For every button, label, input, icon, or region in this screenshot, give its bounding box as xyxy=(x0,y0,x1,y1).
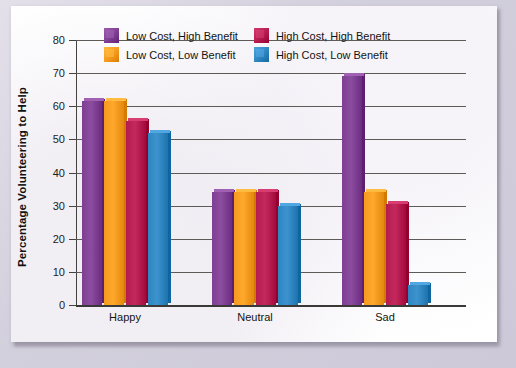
bar-top-highlight xyxy=(84,98,104,101)
y-tick-30 xyxy=(69,206,76,207)
bar-body xyxy=(278,206,298,305)
y-tick-60 xyxy=(69,106,76,107)
legend-label: Low Cost, Low Benefit xyxy=(126,49,235,61)
bar[interactable] xyxy=(234,192,254,305)
bar-body xyxy=(148,133,168,305)
bar-top-highlight xyxy=(388,201,408,204)
bar-top-highlight xyxy=(258,189,278,192)
bar-body xyxy=(256,192,276,305)
legend-swatch-icon xyxy=(104,28,119,43)
chart-legend: Low Cost, High BenefitHigh Cost, High Be… xyxy=(104,28,390,62)
bar-body xyxy=(234,192,254,305)
bar[interactable] xyxy=(342,76,362,305)
bar-side-shade xyxy=(168,131,171,303)
bar-body xyxy=(212,192,232,305)
bar[interactable] xyxy=(212,192,232,305)
y-tick-label-20: 20 xyxy=(53,233,65,245)
y-tick-label-0: 0 xyxy=(59,299,65,311)
bar-body xyxy=(126,121,146,305)
bar[interactable] xyxy=(278,206,298,305)
bar-body xyxy=(82,101,102,305)
y-tick-70 xyxy=(69,73,76,74)
bar[interactable] xyxy=(256,192,276,305)
bar-top-highlight xyxy=(214,189,234,192)
bar-group-sad xyxy=(342,40,428,305)
legend-item[interactable]: Low Cost, Low Benefit xyxy=(104,47,238,62)
bar[interactable] xyxy=(386,204,406,305)
bar-body xyxy=(104,101,124,305)
x-axis-label-sad: Sad xyxy=(325,311,445,323)
bar-top-highlight xyxy=(344,73,364,76)
bar-group-neutral xyxy=(212,40,298,305)
y-tick-label-70: 70 xyxy=(53,67,65,79)
bar-top-highlight xyxy=(280,203,300,206)
bar[interactable] xyxy=(364,192,384,305)
legend-swatch-icon xyxy=(254,47,269,62)
bar-body xyxy=(342,76,362,305)
bar-body xyxy=(364,192,384,305)
bar-top-highlight xyxy=(366,189,386,192)
y-tick-label-80: 80 xyxy=(53,34,65,46)
y-tick-0 xyxy=(69,305,76,306)
bar[interactable] xyxy=(104,101,124,305)
bar-top-highlight xyxy=(128,118,148,121)
bar-top-highlight xyxy=(410,282,430,285)
y-tick-80 xyxy=(69,40,76,41)
x-axis-label-happy: Happy xyxy=(65,311,185,323)
legend-swatch-icon xyxy=(254,28,269,43)
bar[interactable] xyxy=(408,285,428,305)
y-tick-label-10: 10 xyxy=(53,266,65,278)
plot-area: 01020304050607080 HappyNeutralSad xyxy=(76,40,466,305)
y-tick-label-50: 50 xyxy=(53,133,65,145)
y-tick-label-40: 40 xyxy=(53,167,65,179)
bar-group-happy xyxy=(82,40,168,305)
bar-body xyxy=(408,285,428,305)
legend-item[interactable]: High Cost, High Benefit xyxy=(254,28,390,43)
legend-label: Low Cost, High Benefit xyxy=(126,30,238,42)
y-tick-10 xyxy=(69,272,76,273)
legend-item[interactable]: High Cost, Low Benefit xyxy=(254,47,390,62)
x-axis-line xyxy=(76,305,466,307)
y-tick-label-30: 30 xyxy=(53,200,65,212)
legend-item[interactable]: Low Cost, High Benefit xyxy=(104,28,238,43)
bar-body xyxy=(386,204,406,305)
bar-top-highlight xyxy=(150,130,170,133)
legend-label: High Cost, High Benefit xyxy=(276,30,390,42)
page-background: Percentage Volunteering to Help 01020304… xyxy=(0,0,516,368)
legend-swatch-icon xyxy=(104,47,119,62)
bar-top-highlight xyxy=(106,98,126,101)
bar-side-shade xyxy=(428,283,431,303)
bar-side-shade xyxy=(298,204,301,303)
y-tick-20 xyxy=(69,239,76,240)
y-tick-label-60: 60 xyxy=(53,100,65,112)
bar[interactable] xyxy=(82,101,102,305)
x-axis-label-neutral: Neutral xyxy=(195,311,315,323)
y-tick-50 xyxy=(69,139,76,140)
y-axis-title: Percentage Volunteering to Help xyxy=(16,52,28,302)
bar[interactable] xyxy=(126,121,146,305)
bar[interactable] xyxy=(148,133,168,305)
y-tick-40 xyxy=(69,173,76,174)
bar-top-highlight xyxy=(236,189,256,192)
legend-label: High Cost, Low Benefit xyxy=(276,49,388,61)
